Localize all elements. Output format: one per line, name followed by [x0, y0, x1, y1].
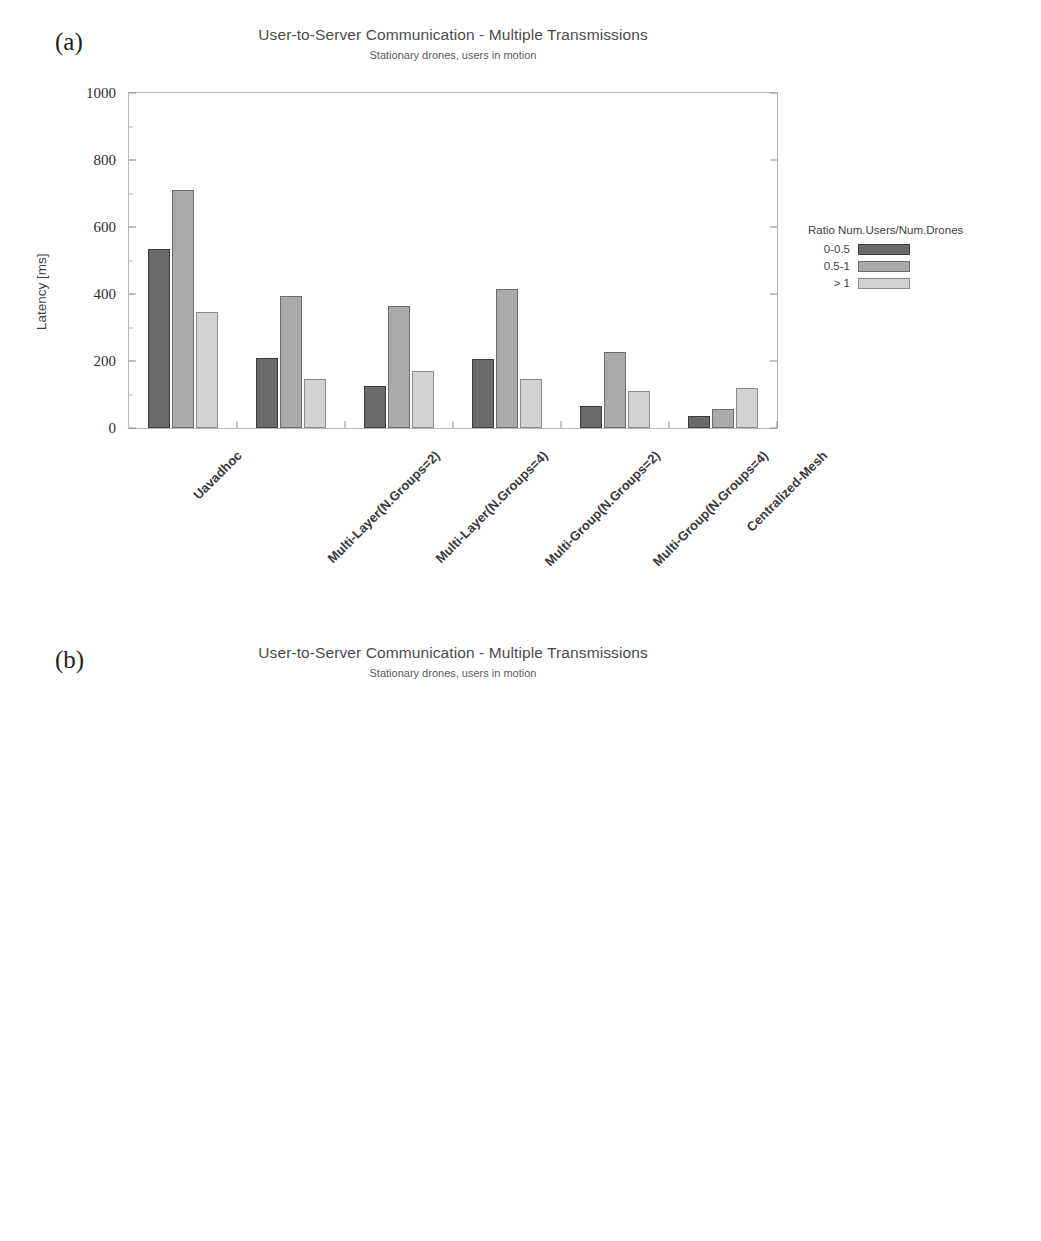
bar — [712, 409, 734, 428]
x-axis-tick-mark — [453, 421, 454, 428]
y-axis-minor-tick — [129, 193, 133, 194]
panel-label-a: (a) — [55, 28, 83, 56]
chart-a-title-block: User-to-Server Communication - Multiple … — [128, 26, 778, 61]
y-axis-minor-tick — [129, 227, 133, 228]
bar — [520, 379, 542, 428]
chart-b-subtitle: Stationary drones, users in motion — [128, 667, 778, 679]
legend-item-label: 0-0.5 — [808, 243, 858, 255]
bar — [304, 379, 326, 428]
bar — [688, 416, 710, 428]
chart-panel-b: (b) User-to-Server Communication - Multi… — [0, 620, 1041, 1241]
y-axis-tick-label: 400 — [94, 286, 130, 303]
x-axis-tick-mark — [669, 421, 670, 428]
legend-item: 0.5-1 — [808, 260, 963, 272]
y-axis-tick-mark — [770, 93, 777, 94]
x-axis-tick-mark — [237, 421, 238, 428]
legend-swatch-icon — [858, 278, 910, 289]
y-axis-tick-label: 600 — [94, 219, 130, 236]
legend-item: > 1 — [808, 277, 963, 289]
y-axis-minor-tick — [129, 327, 133, 328]
chart-a-y-axis-label: Latency [ms] — [34, 253, 49, 330]
legend-item: 0-0.5 — [808, 243, 963, 255]
bar — [628, 391, 650, 428]
y-axis-tick-mark — [770, 227, 777, 228]
x-axis-category-label: Multi-Group(N.Groups=2) — [542, 448, 663, 569]
legend-item-label: > 1 — [808, 277, 858, 289]
bar — [172, 190, 194, 428]
x-axis-tick-mark — [345, 421, 346, 428]
x-axis-category-label: Multi-Layer(N.Groups=4) — [433, 448, 551, 566]
panel-label-b: (b) — [55, 646, 84, 674]
y-axis-minor-tick — [129, 126, 133, 127]
chart-b-title-block: User-to-Server Communication - Multiple … — [128, 644, 778, 679]
y-axis-tick-label: 800 — [94, 152, 130, 169]
legend-title: Ratio Num.Users/Num.Drones — [808, 224, 963, 236]
x-axis-category-label: Uavadhoc — [190, 448, 245, 503]
y-axis-tick-label: 1000 — [86, 85, 129, 102]
chart-a-subtitle: Stationary drones, users in motion — [128, 49, 778, 61]
bar — [496, 289, 518, 428]
x-axis-category-label: Multi-Layer(N.Groups=2) — [325, 448, 443, 566]
bar — [736, 388, 758, 428]
bar — [412, 371, 434, 428]
y-axis-tick-mark — [129, 93, 136, 94]
bar — [580, 406, 602, 428]
legend-item-label: 0.5-1 — [808, 260, 858, 272]
chart-a-plot-area: 02004006008001000UavadhocMulti-Layer(N.G… — [128, 92, 778, 429]
y-axis-tick-mark — [770, 160, 777, 161]
bar — [256, 358, 278, 428]
y-axis-tick-label: 0 — [109, 420, 130, 437]
chart-b-title: User-to-Server Communication - Multiple … — [128, 644, 778, 662]
bar — [388, 306, 410, 428]
legend-swatch-icon — [858, 261, 910, 272]
chart-a-title: User-to-Server Communication - Multiple … — [128, 26, 778, 44]
bar — [472, 359, 494, 428]
y-axis-tick-label: 200 — [94, 353, 130, 370]
bar — [604, 352, 626, 428]
bar — [364, 386, 386, 428]
x-axis-tick-mark — [561, 421, 562, 428]
bar — [148, 249, 170, 428]
y-axis-tick-mark — [129, 428, 136, 429]
y-axis-minor-tick — [129, 361, 133, 362]
y-axis-tick-mark — [770, 361, 777, 362]
bar — [196, 312, 218, 428]
x-axis-tick-mark — [777, 421, 778, 428]
y-axis-minor-tick — [129, 260, 133, 261]
chart-a-legend: Ratio Num.Users/Num.Drones 0-0.5 0.5-1 >… — [808, 224, 963, 294]
x-axis-category-label: Multi-Group(N.Groups=4) — [650, 448, 771, 569]
legend-swatch-icon — [858, 244, 910, 255]
chart-panel-a: (a) User-to-Server Communication - Multi… — [0, 0, 1041, 620]
bar — [280, 296, 302, 428]
y-axis-minor-tick — [129, 394, 133, 395]
y-axis-tick-mark — [770, 294, 777, 295]
y-axis-minor-tick — [129, 294, 133, 295]
y-axis-minor-tick — [129, 160, 133, 161]
